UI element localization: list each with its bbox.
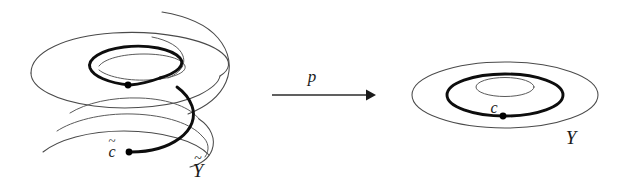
lifted-path-upper-endpoint-dot xyxy=(125,82,132,89)
annulus-diagram: c Y xyxy=(412,62,598,148)
lifted-path-lower-arc xyxy=(131,87,194,152)
label-Y-tilde: Y ~ xyxy=(193,151,206,181)
spiral-ramp-edge-upper-right xyxy=(162,12,229,114)
annulus-core-loop xyxy=(447,74,563,116)
lifted-path-upper-tail xyxy=(130,78,160,85)
covering-map-figure: c ~ Y ~ p c xyxy=(0,0,629,183)
lifted-path-lower-endpoint-dot xyxy=(126,149,133,156)
lifted-path-upper-arc xyxy=(90,46,182,85)
figure-canvas: c ~ Y ~ p c xyxy=(0,0,629,183)
spiral-inner-boundary-lower xyxy=(57,114,202,136)
annulus-basepoint-dot xyxy=(500,113,507,120)
label-Y-tilde-accent: ~ xyxy=(194,151,202,166)
covering-map-arrow: p xyxy=(272,67,376,101)
spiral-cover-diagram: c ~ Y ~ xyxy=(31,12,229,181)
map-arrow-head xyxy=(366,90,376,101)
label-c-tilde: c ~ xyxy=(108,133,115,160)
spiral-ramp-edge-lower-inner xyxy=(202,136,208,157)
label-c: c xyxy=(490,99,497,116)
map-arrow-label: p xyxy=(307,67,317,86)
label-Y: Y xyxy=(566,127,579,148)
spiral-rim-lower xyxy=(70,98,199,119)
label-c-tilde-accent: ~ xyxy=(108,133,115,148)
annulus-inner-boundary xyxy=(476,78,534,97)
